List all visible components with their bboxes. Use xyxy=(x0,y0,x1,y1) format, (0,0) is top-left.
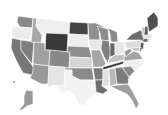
state-or[interactable] xyxy=(12,27,32,40)
state-sd[interactable] xyxy=(68,34,89,47)
state-ar[interactable] xyxy=(93,68,103,80)
state-nh[interactable] xyxy=(144,26,148,35)
state-wy[interactable] xyxy=(45,33,68,52)
state-hi[interactable] xyxy=(13,81,15,83)
state-nm[interactable] xyxy=(48,66,65,88)
state-ak[interactable] xyxy=(19,90,33,110)
state-mt[interactable] xyxy=(36,18,70,35)
state-ms[interactable] xyxy=(102,69,109,86)
state-fl[interactable] xyxy=(110,84,139,109)
state-in[interactable] xyxy=(110,43,115,57)
state-me[interactable] xyxy=(147,12,158,32)
state-oh[interactable] xyxy=(115,42,125,55)
state-wa[interactable] xyxy=(17,16,33,28)
state-nd[interactable] xyxy=(69,22,88,35)
state-de[interactable] xyxy=(140,47,142,52)
state-mi[interactable] xyxy=(108,28,118,42)
state-az[interactable] xyxy=(30,64,49,84)
state-shapes xyxy=(11,12,158,110)
state-ks[interactable] xyxy=(69,57,92,68)
state-ri[interactable] xyxy=(148,38,150,41)
state-co[interactable] xyxy=(49,50,70,68)
us-choropleth-map xyxy=(0,0,168,115)
state-ct[interactable] xyxy=(143,38,148,42)
state-ne[interactable] xyxy=(67,46,92,58)
